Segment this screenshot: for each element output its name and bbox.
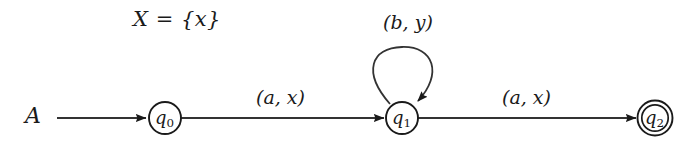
figure-canvas: X = {x} A (a, x) (b, y) (a, x) q0 q1 q2 — [0, 0, 689, 159]
edge-label-q0-to-q1: (a, x) — [256, 88, 305, 107]
edge-q1-self-loop — [373, 47, 432, 104]
state-label-q0-subscript: 0 — [167, 116, 175, 130]
state-label-q2-name: q — [645, 107, 657, 128]
automaton-diagram — [0, 0, 689, 159]
edge-label-q1-to-q2: (a, x) — [502, 88, 551, 107]
state-label-q0: q0 — [155, 109, 174, 129]
edge-label-q1-self-loop: (b, y) — [383, 13, 433, 32]
state-label-q2-subscript: 2 — [657, 116, 665, 130]
state-label-q1-subscript: 1 — [404, 116, 412, 130]
state-label-q1: q1 — [392, 109, 411, 129]
register-set-label: X = {x} — [133, 9, 221, 30]
state-label-q2: q2 — [645, 109, 664, 129]
state-label-q0-name: q — [155, 107, 167, 128]
automaton-name-label: A — [25, 105, 41, 127]
state-label-q1-name: q — [392, 107, 404, 128]
